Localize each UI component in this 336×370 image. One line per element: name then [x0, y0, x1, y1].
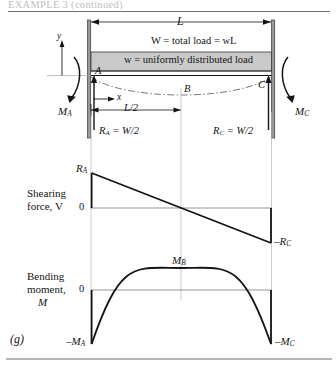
shear-title-line1: Shearing — [27, 188, 66, 199]
moment-a-subscript: A — [67, 110, 71, 118]
shear-min-label: –RC — [274, 236, 291, 249]
node-b-label: B — [184, 84, 190, 95]
left-wall — [88, 20, 91, 138]
x-axis-label: x — [117, 93, 121, 103]
moment-c-symbol: M — [295, 105, 304, 117]
node-c-label: C — [258, 80, 265, 91]
shear-peak-symbol: R — [76, 162, 83, 174]
span-label: L — [177, 15, 184, 27]
moment-right-subscript: C — [290, 340, 295, 348]
moment-right-label: –MC — [275, 336, 295, 349]
moment-c-arrowhead — [286, 95, 295, 103]
moment-left-subscript: A — [81, 340, 85, 348]
part-label: (g) — [10, 333, 24, 345]
right-wall — [272, 20, 275, 138]
span-arrow-left — [91, 19, 99, 25]
reaction-c-label: RC = W/2 — [213, 126, 253, 137]
x-axis-arrowhead — [108, 97, 115, 102]
moment-right-symbol: –M — [275, 335, 290, 347]
reaction-c-value: = W/2 — [224, 125, 253, 136]
moment-c-label: MC — [295, 106, 309, 119]
moment-mid-subscript: B — [181, 259, 185, 267]
total-load-label: W = total load = wL — [151, 36, 236, 47]
node-a-label: A — [95, 66, 101, 77]
moment-left-label: –MA — [66, 336, 85, 349]
reaction-a-value: = W/2 — [110, 125, 139, 136]
moment-a-arrow — [71, 57, 80, 99]
half-span-label: L/2 — [124, 103, 138, 114]
shear-min-symbol: –R — [274, 235, 286, 247]
moment-a-arrowhead — [67, 95, 76, 103]
reaction-c-arrowhead — [265, 75, 271, 83]
shear-title-line2: force, V — [27, 201, 63, 212]
moment-title-line3: M — [38, 297, 47, 308]
moment-mid-label: MB — [172, 255, 186, 268]
shear-zero-label: 0 — [79, 202, 84, 213]
half-span-arrow-right — [174, 108, 182, 113]
span-arrow-right — [263, 19, 271, 25]
moment-c-subscript: C — [304, 110, 309, 118]
moment-a-label: MA — [58, 106, 72, 119]
moment-title-line1: Bending — [27, 271, 64, 282]
y-axis-label: y — [57, 32, 61, 42]
moment-left-symbol: –M — [66, 335, 81, 347]
shear-peak-subscript: A — [83, 167, 87, 175]
half-span-arrow-left — [91, 108, 99, 113]
reaction-a-label: RA = W/2 — [99, 126, 139, 137]
shear-peak-label: RA — [76, 163, 87, 176]
moment-mid-symbol: M — [172, 254, 181, 266]
moment-c-arrow — [282, 57, 291, 99]
moment-a-symbol: M — [58, 105, 67, 117]
moment-zero-label: 0 — [79, 284, 84, 295]
moment-title-line2: moment, — [27, 284, 66, 295]
shear-min-subscript: C — [286, 240, 291, 248]
distributed-load-label: w = uniformly distributed load — [124, 55, 253, 66]
